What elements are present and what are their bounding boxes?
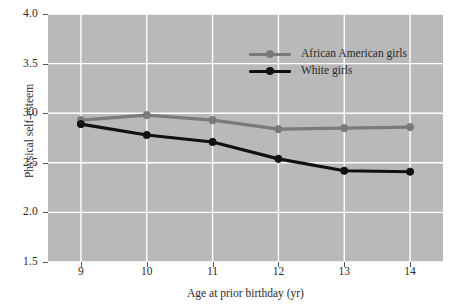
x-tick-label: 12 xyxy=(258,266,298,278)
legend-item-african-american-girls[interactable]: African American girls xyxy=(249,46,439,62)
data-point-0-5[interactable] xyxy=(406,123,413,130)
legend-label: White girls xyxy=(301,64,352,77)
x-tick-label: 13 xyxy=(324,266,364,278)
x-tick-label: 10 xyxy=(127,266,167,278)
x-tick-mark xyxy=(147,262,148,267)
x-tick-label: 9 xyxy=(61,266,101,278)
legend-item-white-girls[interactable]: White girls xyxy=(249,63,439,79)
data-point-0-3[interactable] xyxy=(275,125,282,132)
data-point-1-0[interactable] xyxy=(77,121,84,128)
data-point-1-4[interactable] xyxy=(341,167,348,174)
data-point-0-1[interactable] xyxy=(143,112,150,119)
x-tick-mark xyxy=(344,262,345,267)
legend-swatch-icon xyxy=(249,67,291,75)
y-tick-label: 1.5 xyxy=(23,256,38,268)
y-tick-label: 4.0 xyxy=(23,8,38,20)
legend-label: African American girls xyxy=(301,47,407,60)
data-point-1-3[interactable] xyxy=(275,155,282,162)
data-point-1-5[interactable] xyxy=(406,168,413,175)
y-axis-title: Physical self-esteem xyxy=(23,51,35,211)
data-point-1-2[interactable] xyxy=(209,138,216,145)
y-axis-tick-labels: 1.52.02.53.03.54.0 xyxy=(0,0,44,308)
x-axis-title: Age at prior birthday (yr) xyxy=(48,287,443,299)
series-line-1 xyxy=(81,124,410,172)
x-tick-mark xyxy=(410,262,411,267)
x-tick-mark xyxy=(81,262,82,267)
x-tick-mark xyxy=(278,262,279,267)
series-line-0 xyxy=(81,115,410,129)
x-tick-mark xyxy=(213,262,214,267)
data-point-0-4[interactable] xyxy=(341,124,348,131)
y-tick-mark xyxy=(43,262,48,263)
data-point-1-1[interactable] xyxy=(143,131,150,138)
chart-legend: African American girls White girls xyxy=(249,46,439,80)
x-tick-label: 14 xyxy=(390,266,430,278)
data-point-0-2[interactable] xyxy=(209,117,216,124)
legend-swatch-icon xyxy=(249,50,291,58)
chart-figure: 1.52.02.53.03.54.0 Physical self-esteem … xyxy=(0,0,460,308)
x-tick-label: 11 xyxy=(193,266,233,278)
